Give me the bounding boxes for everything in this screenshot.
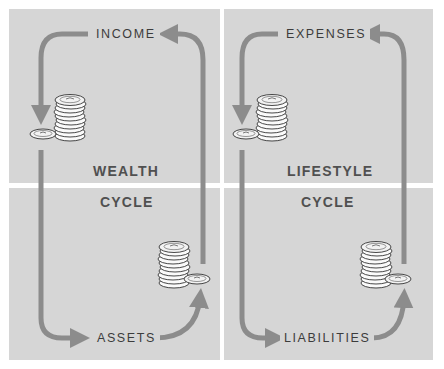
wealth-cycle-arrows bbox=[41, 34, 203, 338]
lifestyle-cycle-arrows bbox=[242, 34, 404, 338]
lifestyle-cycle-title: CYCLE bbox=[301, 194, 354, 210]
single-coin-icon bbox=[184, 274, 210, 284]
coin-stack-icon bbox=[256, 95, 288, 142]
income-label: INCOME bbox=[92, 27, 160, 41]
single-coin-icon bbox=[233, 129, 259, 139]
liabilities-label: LIABILITIES bbox=[280, 331, 374, 345]
assets-label: ASSETS bbox=[93, 331, 160, 345]
cycle-arrows bbox=[0, 0, 444, 369]
expenses-label: EXPENSES bbox=[282, 27, 370, 41]
single-coin-icon bbox=[30, 129, 56, 139]
coin-stack-icon bbox=[54, 95, 86, 142]
lifestyle-title: LIFESTYLE bbox=[287, 163, 373, 179]
wealth-title: WEALTH bbox=[93, 163, 159, 179]
single-coin-icon bbox=[385, 274, 411, 284]
wealth-cycle-title: CYCLE bbox=[100, 194, 153, 210]
